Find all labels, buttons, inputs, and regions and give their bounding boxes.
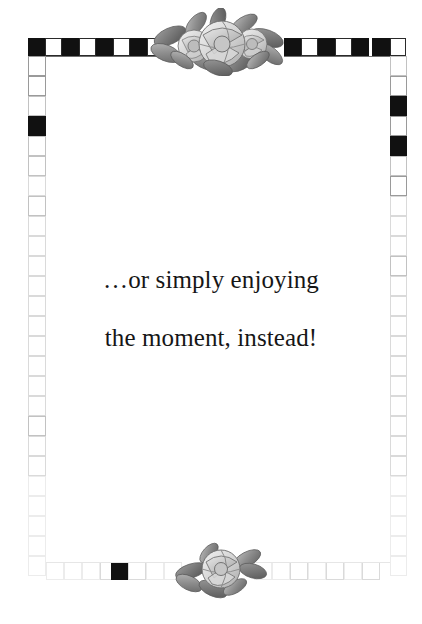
border-cell <box>82 562 100 580</box>
border-cell <box>390 176 407 196</box>
border-cell <box>390 116 407 136</box>
border-cell <box>79 38 96 56</box>
border-cell <box>28 216 46 236</box>
border-cell <box>64 562 82 580</box>
border-cell <box>28 176 46 196</box>
border-cell <box>28 38 45 56</box>
border-cell <box>390 536 407 556</box>
border-cell-accent <box>111 563 128 580</box>
border-cell <box>28 416 46 436</box>
border-cell <box>28 496 46 516</box>
border-cell <box>46 562 64 580</box>
border-cell <box>272 562 290 580</box>
message-text: …or simply enjoying the moment, instead! <box>0 236 422 381</box>
message-line-2: the moment, instead! <box>0 323 422 352</box>
stationery-page: …or simply enjoying the moment, instead! <box>0 0 422 624</box>
border-cell <box>390 156 407 176</box>
border-cell <box>96 38 113 56</box>
border-cell-accent <box>28 116 46 136</box>
border-cell <box>318 38 335 56</box>
rose-cluster-bottom <box>173 541 269 599</box>
border-cell <box>362 562 380 580</box>
border-cell-corner <box>372 38 390 56</box>
border-rule <box>284 56 406 57</box>
border-cell <box>28 476 46 496</box>
border-cell-corner <box>390 556 407 576</box>
border-cell <box>390 216 407 236</box>
border-cell-accent <box>390 136 407 156</box>
border-cell <box>28 536 46 556</box>
border-cell <box>390 516 407 536</box>
border-cell <box>301 38 318 56</box>
border-cell <box>352 38 369 56</box>
border-cell <box>335 38 352 56</box>
message-line-1: …or simply enjoying <box>0 265 422 294</box>
border-rule <box>46 562 182 563</box>
border-cell <box>28 396 46 416</box>
border-rule <box>254 562 390 563</box>
border-cell <box>390 56 407 76</box>
border-cell <box>390 76 407 96</box>
border-cell <box>62 38 79 56</box>
border-cell <box>290 562 308 580</box>
border-cell-accent <box>390 96 407 116</box>
border-cell <box>28 456 46 476</box>
border-cell <box>113 38 130 56</box>
border-cell <box>344 562 362 580</box>
border-cell <box>390 196 407 216</box>
border-cell <box>45 38 62 56</box>
border-cell <box>390 396 407 416</box>
border-cell <box>28 76 46 96</box>
border-rule <box>28 56 164 57</box>
border-cell <box>146 562 164 580</box>
border-cell <box>326 562 344 580</box>
border-cell <box>28 156 46 176</box>
border-cell <box>308 562 326 580</box>
border-cell <box>28 516 46 536</box>
border-cell <box>28 136 46 156</box>
border-cell <box>130 38 147 56</box>
border-cell <box>390 436 407 456</box>
border-cell <box>28 56 46 76</box>
border-cell <box>28 96 46 116</box>
border-cell <box>390 416 407 436</box>
border-cell <box>28 196 46 216</box>
border-cell <box>128 562 146 580</box>
border-cell <box>390 38 406 56</box>
border-cell-corner <box>28 556 46 576</box>
border-cell <box>390 456 407 476</box>
border-cell <box>28 436 46 456</box>
border-cell <box>390 496 407 516</box>
rose-cluster-top <box>148 8 288 76</box>
border-cell <box>390 476 407 496</box>
